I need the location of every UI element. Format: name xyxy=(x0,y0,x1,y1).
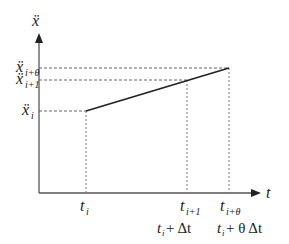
x-label-t-i-theta: t i+θ xyxy=(220,197,241,217)
x-label-sub: i+θ xyxy=(226,206,241,217)
x-axis-arrow-icon xyxy=(251,189,261,197)
x-label-sub: i+1 xyxy=(186,206,201,217)
y-label-sub: i+θ xyxy=(25,67,40,78)
x-expr-rest: + Δt xyxy=(166,220,192,236)
y-label-base: ẍ xyxy=(15,70,24,87)
y-axis-arrow-icon xyxy=(35,33,43,43)
y-label-sub: i xyxy=(31,110,34,121)
x-label-base: t xyxy=(80,197,85,214)
y-axis-label: ẍ xyxy=(31,12,40,29)
y-label-base: ẍ xyxy=(21,101,30,118)
x-expr-sub: i xyxy=(162,228,165,238)
x-axis-label: t xyxy=(266,184,271,201)
y-label-x-i: ẍ i xyxy=(21,101,34,121)
diagram-canvas: ẍ t ẍ i+θ ẍ i+1 ẍ i t i t i+1 t i+θ t i … xyxy=(0,0,289,244)
x-label-base: t xyxy=(180,197,185,214)
x-expr-sub: i xyxy=(222,228,225,238)
x-expr-rest: + θ Δt xyxy=(226,220,263,236)
x-label-sub: i xyxy=(86,206,89,217)
y-label-sub: i+1 xyxy=(25,79,40,90)
acceleration-line xyxy=(86,68,229,111)
x-expression-theta-dt: t i + θ Δt xyxy=(217,220,263,238)
x-label-t-i1: t i+1 xyxy=(180,197,201,217)
x-label-base: t xyxy=(220,197,225,214)
x-label-t-i: t i xyxy=(80,197,89,217)
x-expression-dt: t i + Δt xyxy=(157,220,192,238)
